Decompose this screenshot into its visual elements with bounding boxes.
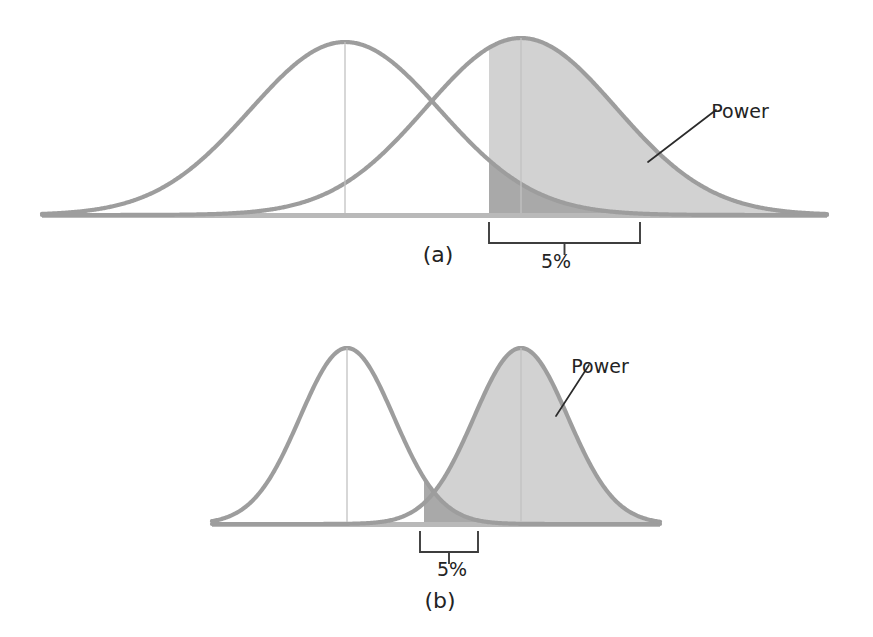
alpha-percent-label-a: 5% [541, 250, 571, 272]
panel-a: Power 5% (a) [0, 0, 873, 320]
power-label-a: Power [711, 100, 769, 122]
panel-caption-b: (b) [424, 588, 455, 613]
panel-a-fills [489, 38, 827, 215]
alpha-bracket-a [489, 222, 640, 243]
power-area-a [489, 38, 827, 215]
panel-caption-a: (a) [423, 242, 454, 267]
power-label-b: Power [571, 355, 629, 377]
panel-b: Power 5% (b) [0, 320, 873, 637]
power-leader-line-a [648, 110, 716, 162]
alpha-percent-label-b: 5% [437, 558, 467, 580]
power-figure: Power 5% (a) Power 5% (b) [0, 0, 873, 637]
alpha-bracket-b [420, 531, 478, 552]
